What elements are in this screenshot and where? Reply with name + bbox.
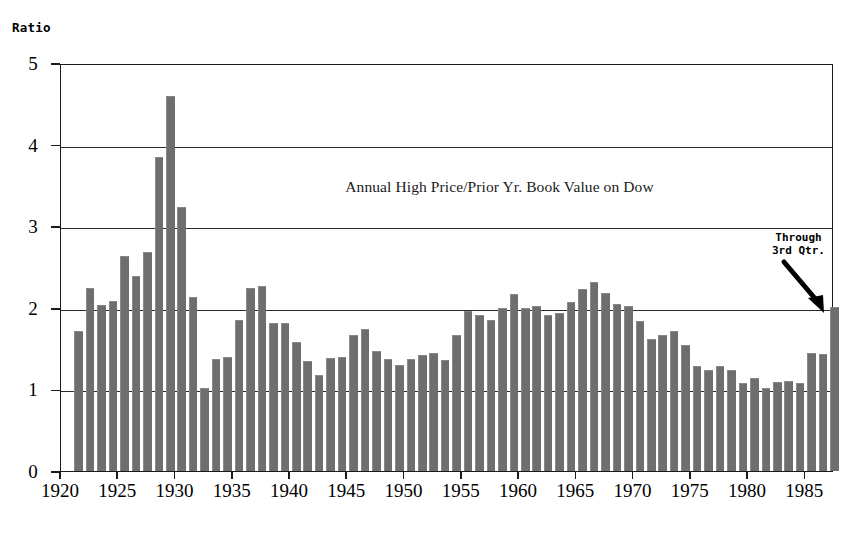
annotation-line-1: Through: [772, 231, 825, 244]
bar: [143, 252, 152, 471]
bar: [407, 359, 416, 471]
bar: [395, 365, 404, 471]
bar: [784, 381, 793, 471]
chart-container: Ratio 012345 192019251930193519401945195…: [0, 0, 863, 533]
bar: [647, 339, 656, 471]
y-axis-tick: [51, 226, 60, 228]
bar: [303, 361, 312, 471]
bar: [773, 382, 782, 471]
bar: [578, 289, 587, 471]
y-axis-tick-label: 4: [20, 136, 46, 155]
x-axis-tick-label: 1930: [156, 480, 194, 502]
y-axis-tick: [51, 145, 60, 147]
bar-series: [61, 65, 832, 471]
bar: [670, 331, 679, 471]
bar: [246, 288, 255, 471]
bar: [155, 157, 164, 471]
bar: [349, 335, 358, 471]
bar: [567, 302, 576, 471]
bar: [739, 383, 748, 471]
x-axis-tick-label: 1965: [556, 480, 594, 502]
bar: [429, 353, 438, 471]
x-axis-tick-label: 1980: [728, 480, 766, 502]
y-axis-caption: Ratio: [12, 20, 51, 35]
x-axis-tick: [403, 472, 405, 479]
bar: [120, 256, 129, 471]
x-axis-tick-label: 1955: [442, 480, 480, 502]
x-axis-tick-label: 1920: [41, 480, 79, 502]
bar: [727, 370, 736, 471]
bar: [74, 331, 83, 471]
y-axis-tick-label: 1: [20, 380, 46, 399]
y-axis-tick: [51, 308, 60, 310]
bar: [258, 286, 267, 471]
bar: [464, 311, 473, 471]
x-axis-tick-label: 1945: [327, 480, 365, 502]
bar: [200, 388, 209, 471]
bar: [658, 335, 667, 471]
x-axis-tick: [288, 472, 290, 479]
bar: [796, 383, 805, 471]
chart-title-text: Annual High Price/Prior Yr. Book Value o…: [345, 178, 653, 195]
y-axis-tick-label: 5: [20, 54, 46, 73]
x-axis-tick: [231, 472, 233, 479]
bar: [361, 329, 370, 471]
bar: [86, 288, 95, 471]
bar: [166, 96, 175, 471]
x-axis-tick-label: 1960: [499, 480, 537, 502]
x-axis-tick: [460, 472, 462, 479]
bar: [441, 360, 450, 471]
bar: [418, 355, 427, 471]
bar: [750, 378, 759, 471]
bar: [384, 359, 393, 471]
x-axis-tick-label: 1975: [671, 480, 709, 502]
x-axis-tick: [804, 472, 806, 479]
bar: [292, 342, 301, 471]
y-axis-tick: [51, 390, 60, 392]
bar: [807, 353, 816, 472]
x-axis-tick: [59, 472, 61, 479]
bar: [716, 366, 725, 471]
bar: [372, 351, 381, 471]
x-axis-tick: [746, 472, 748, 479]
annotation-line-2: 3rd Qtr.: [772, 244, 825, 257]
bar: [498, 308, 507, 471]
bar: [532, 306, 541, 471]
bar: [487, 320, 496, 471]
bar: [613, 304, 622, 471]
bar: [109, 301, 118, 471]
bar: [281, 323, 290, 471]
bar: [601, 293, 610, 471]
x-axis-tick: [689, 472, 691, 479]
bar: [521, 308, 530, 471]
x-axis-tick-label: 1985: [785, 480, 823, 502]
plot-area: [60, 64, 833, 472]
x-axis-tick: [174, 472, 176, 479]
chart-title: Annual High Price/Prior Yr. Book Value o…: [0, 178, 863, 196]
y-axis-tick: [51, 63, 60, 65]
bar: [475, 315, 484, 471]
bar: [544, 315, 553, 471]
x-axis-tick-label: 1935: [213, 480, 251, 502]
bar: [269, 323, 278, 471]
bar: [762, 388, 771, 471]
annotation-label: Through 3rd Qtr.: [772, 231, 825, 257]
bar: [452, 335, 461, 471]
x-axis-tick: [575, 472, 577, 479]
bar: [590, 282, 599, 471]
bar: [555, 313, 564, 471]
y-axis-tick-label: 3: [20, 217, 46, 236]
x-axis-tick-label: 1940: [270, 480, 308, 502]
bar: [693, 366, 702, 471]
bar: [510, 294, 519, 471]
bar: [830, 307, 839, 471]
x-axis-tick: [116, 472, 118, 479]
y-axis-tick-label: 2: [20, 299, 46, 318]
bar: [338, 357, 347, 471]
bar: [681, 345, 690, 471]
bar: [819, 354, 828, 471]
bar: [315, 375, 324, 471]
bar: [177, 207, 186, 471]
bar: [189, 297, 198, 471]
bar: [326, 358, 335, 471]
